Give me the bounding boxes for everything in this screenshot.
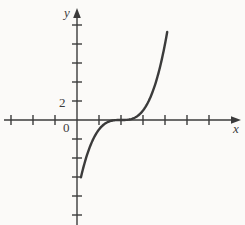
origin-label: 0 [63, 121, 70, 134]
x-axis-label: x [233, 122, 239, 135]
y-axis-arrowhead [73, 8, 81, 18]
graph-canvas [0, 0, 245, 225]
y-tick-label-2: 2 [59, 96, 66, 109]
y-axis-label: y [64, 6, 70, 19]
cubic-curve [81, 32, 167, 177]
cubic-function-graph: y x 2 0 [0, 0, 245, 225]
